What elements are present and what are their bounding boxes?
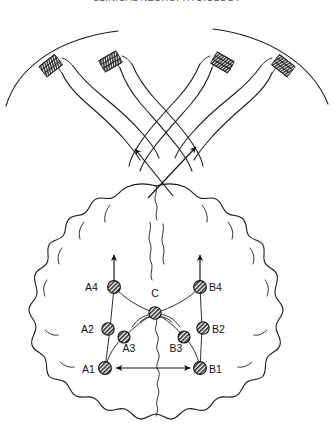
ascending-arrow-stems bbox=[114, 255, 200, 287]
diagram-canvas: A4 B4 C A2 B2 A3 B3 A1 B1 bbox=[0, 0, 334, 440]
hand-outer-right bbox=[271, 54, 295, 77]
node-b1[interactable] bbox=[194, 362, 207, 375]
node-a4[interactable] bbox=[108, 281, 121, 294]
projection-arrow-to-left-arm bbox=[135, 149, 173, 196]
arms-group bbox=[58, 56, 277, 171]
link-a4-c bbox=[114, 287, 155, 313]
label-a1: A1 bbox=[82, 363, 95, 375]
hand-inner-left bbox=[99, 51, 123, 72]
node-b2[interactable] bbox=[197, 322, 209, 334]
node-a2[interactable] bbox=[102, 323, 114, 335]
link-b4-c bbox=[155, 287, 200, 313]
arm-outer-left bbox=[58, 58, 159, 160]
hand-inner-right bbox=[211, 52, 235, 73]
node-a1[interactable] bbox=[99, 362, 112, 375]
brain-outline bbox=[29, 184, 283, 419]
node-c[interactable] bbox=[149, 307, 161, 319]
hands-group bbox=[39, 51, 295, 77]
label-b2: B2 bbox=[212, 323, 225, 335]
label-a2: A2 bbox=[81, 323, 94, 335]
projection-arrow-to-right-arm bbox=[148, 147, 196, 198]
label-b1: B1 bbox=[209, 363, 222, 375]
label-c: C bbox=[151, 287, 159, 299]
label-a3: A3 bbox=[123, 342, 136, 354]
label-b4: B4 bbox=[209, 281, 222, 293]
figure-root: CLINICAL NEUROPHYSIOLOGY bbox=[0, 0, 334, 440]
node-b4[interactable] bbox=[194, 281, 207, 294]
arm-outer-right bbox=[175, 58, 276, 160]
label-a4: A4 bbox=[85, 281, 98, 293]
label-b3: B3 bbox=[170, 342, 183, 354]
crossed-projection-arrows bbox=[135, 147, 196, 198]
arm-inner-right bbox=[129, 56, 216, 171]
node-connection-lines bbox=[105, 287, 202, 368]
